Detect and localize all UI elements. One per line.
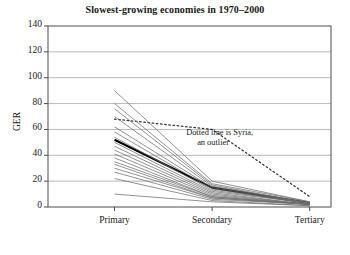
chart-container: Slowest-growing economies in 1970–2000 G… [0,0,350,255]
gridline-group [48,52,331,181]
annotation-line-2: an outlier [186,138,253,148]
y-tick-mark-group [44,26,48,207]
plot-area [0,0,350,255]
annotation-line-1: Dotted line is Syria, [186,128,253,138]
x-tick-mark-group [115,207,310,211]
annotation-syria: Dotted line is Syria, an outlier [186,128,253,148]
series-line-group [115,91,310,206]
